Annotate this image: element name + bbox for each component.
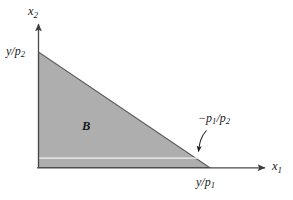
x-intercept-sub: 1 [211,180,215,190]
region-label: B [82,120,90,133]
x-intercept-main: y/p [196,175,211,189]
slope-mid: /p [216,111,225,125]
x-axis-label: x1 [272,160,282,175]
slope-main: −p [198,111,212,125]
y-intercept-tick-label: y/p2 [6,45,25,59]
slope-annotation-label: −p1/p2 [198,112,230,126]
y-axis-label-sub: 2 [34,10,39,20]
figure-canvas [0,0,293,200]
y-intercept-sub: 2 [21,49,25,59]
budget-set-figure: x2 x1 y/p2 y/p1 −p1/p2 B [0,0,293,200]
y-intercept-main: y/p [6,44,21,58]
slope-leader-line [199,131,207,152]
budget-set-region [39,52,210,168]
y-axis-label: x2 [28,5,38,20]
x-intercept-tick-label: y/p1 [196,176,215,190]
slope-sub-2: 2 [226,116,230,126]
x-axis-label-sub: 1 [278,165,283,175]
